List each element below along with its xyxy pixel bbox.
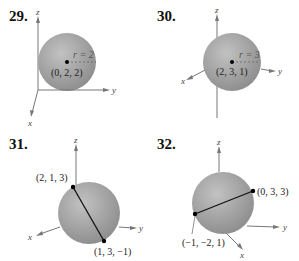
x-axis-label: x [27,118,32,128]
y-axis-label: y [111,85,116,95]
endpoint-b [193,212,197,216]
radius-label: r = 3 [239,49,260,60]
sphere [58,182,120,244]
endpoint-b [102,239,106,243]
center-label: (2, 3, 1) [216,66,248,78]
x-axis-label: x [180,76,185,86]
z-axis-label: z [73,135,78,145]
endpoint-a-label: (0, 3, 3) [257,186,289,198]
problem-29-panel: 29. z y x r = 2 (0, 2, 2) [0,0,150,130]
sphere-diagram-32: z y x (0, 3, 3) (−1, −2, 1) [150,130,299,261]
sphere-diagram-30: z y x r = 3 (2, 3, 1) [150,0,299,130]
endpoint-a-label: (2, 1, 3) [36,172,68,184]
center-point [65,60,69,64]
y-axis-label: y [277,66,282,76]
x-axis-label: x [27,232,32,242]
sphere-diagram-29: z y x r = 2 (0, 2, 2) [0,0,150,130]
center-label: (0, 2, 2) [51,67,83,79]
z-axis-label: z [35,7,40,17]
endpoint-b-label: (−1, −2, 1) [182,237,225,249]
y-axis-label: y [282,222,287,232]
x-axis-label: x [239,250,244,260]
sphere-diagram-31: z y x (2, 1, 3) (1, 3, −1) [0,130,150,261]
problem-30-panel: 30. z y x r = 3 (2, 3, 1) [150,0,299,130]
z-axis-label: z [216,137,221,147]
leader-line [192,216,195,234]
endpoint-a [251,189,255,193]
problem-31-panel: 31. z y x (2, 1, 3) (1, 3, −1) [0,130,150,260]
endpoint-b-label: (1, 3, −1) [94,246,131,258]
problem-32-panel: 32. z y x (0, 3, 3) (−1, −2, 1) [150,130,299,260]
y-axis-label: y [138,223,143,233]
endpoint-a [71,185,75,189]
radius-label: r = 2 [73,49,94,60]
center-point [230,60,234,64]
z-axis-label: z [214,5,219,15]
